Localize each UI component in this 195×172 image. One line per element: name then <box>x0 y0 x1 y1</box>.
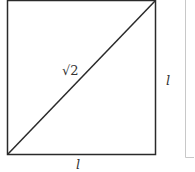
square-diagonal-diagram: √2 l l <box>0 0 194 172</box>
bottom-side-label: l <box>76 158 80 171</box>
page-frame-edge <box>186 0 195 158</box>
diagonal-label: √2 <box>62 64 79 77</box>
right-side-label: l <box>166 74 170 87</box>
diagram-canvas <box>0 0 194 172</box>
diagonal-line <box>8 1 156 155</box>
